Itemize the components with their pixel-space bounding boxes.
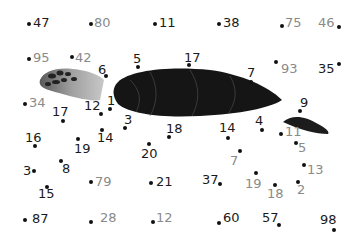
dot-number-label: 46: [318, 16, 335, 29]
dot-number-label: 12: [84, 99, 101, 112]
dot-number-label: 28: [100, 211, 117, 224]
dot-number-label: 5: [133, 52, 141, 65]
dot-79[interactable]: [89, 180, 93, 184]
dot-number-label: 3: [124, 113, 132, 126]
dot-number-label: 95: [33, 51, 50, 64]
dot-number-label: 18: [166, 122, 183, 135]
dot-12[interactable]: [151, 220, 155, 224]
dot-number-label: 17: [52, 105, 69, 118]
dot-number-label: 18: [267, 187, 284, 200]
dot-13[interactable]: [302, 163, 306, 167]
dot-14[interactable]: [226, 136, 230, 140]
dot-number-label: 11: [285, 125, 302, 138]
dot-11[interactable]: [279, 132, 283, 136]
dot-number-label: 20: [141, 147, 158, 160]
dot-number-label: 37: [202, 173, 219, 186]
dot-number-label: 87: [32, 212, 49, 225]
dot-number-label: 93: [281, 62, 298, 75]
dot-number-label: 13: [307, 163, 324, 176]
dot-number-label: 16: [25, 131, 42, 144]
dot-number-label: 35: [318, 62, 335, 75]
dot-95[interactable]: [27, 57, 31, 61]
dot-number-label: 5: [298, 141, 306, 154]
dot-75[interactable]: [280, 24, 284, 28]
dot-number-label: 60: [223, 211, 240, 224]
dot-number-label: 12: [156, 211, 173, 224]
dot-number-label: 19: [245, 177, 262, 190]
dot-number-label: 80: [94, 16, 111, 29]
dot-60[interactable]: [217, 221, 221, 225]
dot-number-label: 17: [184, 51, 201, 64]
dot-3[interactable]: [32, 169, 36, 173]
dot-37[interactable]: [218, 182, 222, 186]
dot-number-label: 47: [33, 16, 50, 29]
dot-number-label: 75: [285, 16, 302, 29]
dot-87[interactable]: [23, 218, 27, 222]
dot-number-label: 1: [107, 94, 115, 107]
dot-number-label: 79: [95, 175, 112, 188]
dot-number-label: 8: [62, 162, 70, 175]
dot-number-label: 98: [320, 213, 337, 226]
dot-number-label: 6: [98, 63, 106, 76]
dot-number-label: 14: [219, 121, 236, 134]
dot-93[interactable]: [274, 60, 278, 64]
dot-number-label: 21: [156, 175, 173, 188]
dot-19[interactable]: [254, 171, 258, 175]
dot-number-label: 2: [297, 183, 305, 196]
dot-number-label: 3: [23, 164, 31, 177]
dot-number-label: 19: [74, 142, 91, 155]
dot-number-label: 7: [247, 66, 255, 79]
dot-number-label: 57: [262, 211, 279, 224]
dot-35[interactable]: [337, 62, 341, 66]
dot-80[interactable]: [89, 22, 93, 26]
dot-number-label: 9: [300, 96, 308, 109]
dot-number-label: 11: [159, 16, 176, 29]
dot-98[interactable]: [332, 228, 336, 232]
dot-47[interactable]: [27, 22, 31, 26]
dot-42[interactable]: [70, 55, 74, 59]
dot-7[interactable]: [249, 80, 253, 84]
dot-number-label: 4: [255, 114, 263, 127]
dot-number-label: 7: [230, 154, 238, 167]
dot-28[interactable]: [89, 220, 93, 224]
dot-4[interactable]: [260, 128, 264, 132]
dot-17[interactable]: [61, 119, 65, 123]
dot-number-label: 38: [223, 16, 240, 29]
dot-11[interactable]: [153, 22, 157, 26]
dot-34[interactable]: [23, 102, 27, 106]
connect-the-dots-board: 4780113875469542651779335341712131814491…: [0, 0, 359, 245]
dot-number-label: 15: [38, 187, 55, 200]
dot-21[interactable]: [149, 181, 153, 185]
dot-38[interactable]: [217, 22, 221, 26]
dot-number-label: 14: [97, 131, 114, 144]
dot-number-label: 42: [75, 51, 92, 64]
dot-number-label: 34: [29, 96, 46, 109]
dot-46[interactable]: [337, 25, 341, 29]
dot-7[interactable]: [238, 149, 242, 153]
